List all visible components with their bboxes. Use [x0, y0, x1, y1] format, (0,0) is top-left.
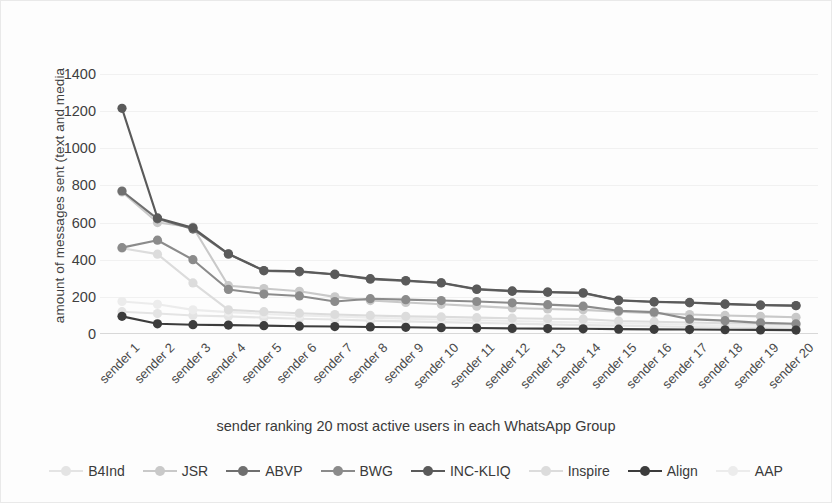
data-point — [188, 223, 197, 232]
legend-item-abvp[interactable]: ABVP — [217, 463, 311, 479]
plot-area — [100, 74, 818, 334]
data-point — [756, 300, 765, 309]
data-point — [543, 300, 552, 309]
data-point — [508, 298, 517, 307]
legend-item-b4ind[interactable]: B4Ind — [40, 463, 134, 479]
data-point — [366, 274, 375, 283]
legend-label: ABVP — [265, 463, 302, 479]
y-axis-tick: 200 — [40, 289, 96, 305]
legend-marker-icon — [49, 465, 83, 477]
legend-marker-icon — [321, 465, 355, 477]
data-point — [720, 299, 729, 308]
y-axis-tick: 1200 — [40, 103, 96, 119]
data-point — [295, 267, 304, 276]
data-point — [153, 236, 162, 245]
series-layer — [100, 74, 818, 334]
data-point — [117, 297, 126, 306]
data-point — [188, 255, 197, 264]
legend-item-align[interactable]: Align — [619, 463, 707, 479]
series-inc-kliq — [117, 104, 800, 310]
data-point — [508, 286, 517, 295]
data-point — [330, 297, 339, 306]
data-point — [224, 249, 233, 258]
data-point — [330, 270, 339, 279]
data-point — [791, 301, 800, 310]
data-point — [117, 104, 126, 113]
data-point — [117, 243, 126, 252]
legend-label: INC-KLIQ — [450, 463, 511, 479]
legend-marker-icon — [628, 465, 662, 477]
data-point — [117, 186, 126, 195]
data-point — [224, 285, 233, 294]
y-axis-tick: 400 — [40, 252, 96, 268]
legend-label: Inspire — [568, 463, 610, 479]
x-axis-title: sender ranking 20 most active users in e… — [0, 418, 832, 434]
data-point — [472, 284, 481, 293]
data-point — [401, 276, 410, 285]
legend-item-inc-kliq[interactable]: INC-KLIQ — [402, 463, 520, 479]
legend-marker-icon — [716, 465, 750, 477]
data-point — [614, 296, 623, 305]
series-line — [122, 192, 796, 317]
data-point — [543, 287, 552, 296]
legend-marker-icon — [226, 465, 260, 477]
legend-item-inspire[interactable]: Inspire — [520, 463, 619, 479]
line-chart: amount of messages sent (text and media … — [0, 0, 832, 503]
data-point — [295, 291, 304, 300]
legend-marker-icon — [411, 465, 445, 477]
y-axis-tick: 1000 — [40, 140, 96, 156]
data-point — [579, 302, 588, 311]
chart-legend: B4IndJSRABVPBWGINC-KLIQInspireAlignAAP — [0, 463, 832, 479]
data-point — [153, 250, 162, 259]
legend-label: JSR — [182, 463, 208, 479]
series-line — [122, 191, 796, 306]
data-point — [117, 312, 126, 321]
data-point — [153, 213, 162, 222]
data-point — [259, 266, 268, 275]
data-point — [259, 289, 268, 298]
y-axis-tick: 600 — [40, 215, 96, 231]
legend-label: Align — [667, 463, 698, 479]
data-point — [366, 294, 375, 303]
legend-item-bwg[interactable]: BWG — [312, 463, 402, 479]
data-point — [437, 296, 446, 305]
data-point — [685, 298, 694, 307]
legend-label: BWG — [360, 463, 393, 479]
y-axis-tick: 800 — [40, 177, 96, 193]
x-axis-tick-labels: sender 1sender 2sender 3sender 4sender 5… — [100, 334, 818, 414]
data-point — [650, 297, 659, 306]
data-point — [472, 297, 481, 306]
data-point — [579, 288, 588, 297]
y-axis-tick: 0 — [40, 326, 96, 342]
legend-marker-icon — [143, 465, 177, 477]
data-point — [153, 300, 162, 309]
legend-item-aap[interactable]: AAP — [707, 463, 792, 479]
data-point — [437, 278, 446, 287]
data-point — [401, 295, 410, 304]
legend-label: AAP — [755, 463, 783, 479]
y-axis-tick: 1400 — [40, 66, 96, 82]
legend-label: B4Ind — [88, 463, 125, 479]
legend-item-jsr[interactable]: JSR — [134, 463, 217, 479]
legend-marker-icon — [529, 465, 563, 477]
data-point — [188, 278, 197, 287]
